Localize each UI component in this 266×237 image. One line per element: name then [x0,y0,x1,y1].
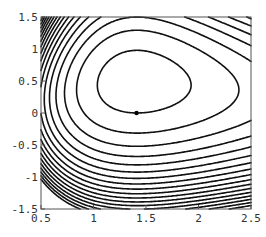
y-tick-label: 1 [31,43,38,56]
critical-point-marker [134,111,138,115]
y-tick-label: -0.5 [12,139,39,152]
x-tick-label: 1 [90,212,97,225]
y-tick-label: 1.5 [18,11,38,24]
x-tick-label: 2.5 [241,212,261,225]
contour-line [97,50,191,113]
contour-lines [41,17,251,209]
contour-plot: 0.511.522.5 1.510.50-0.5-1-1.5 [0,0,266,237]
y-tick-label: -1 [25,171,38,184]
contour-line [77,30,239,133]
y-tick-label: 0 [31,107,38,120]
contour-line [56,17,251,157]
x-tick-label: 2 [195,212,202,225]
x-axis: 0.511.522.5 [31,205,261,225]
y-tick-label: 0.5 [18,75,38,88]
contour-line [41,17,251,184]
y-axis: 1.510.50-0.5-1-1.5 [12,11,46,216]
x-tick-label: 1.5 [136,212,156,225]
contour-line [65,17,252,146]
y-tick-label: -1.5 [12,203,39,216]
